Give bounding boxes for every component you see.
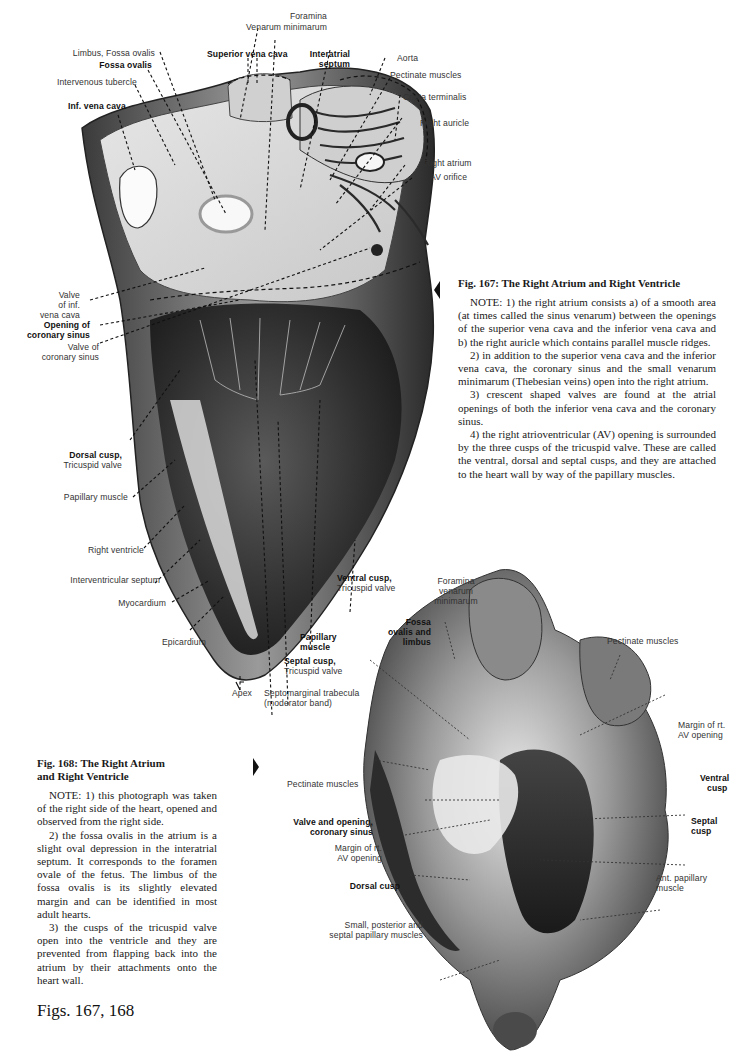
fig168-note-3: 3) the cusps of the tricuspid valve open… (37, 921, 217, 987)
label-valve-of-ivc-3: vena cava (20, 310, 80, 320)
label-pectinate-muscles-167: Pectinate muscles (390, 70, 461, 80)
label-intervenous-tubercle: Intervenous tubercle (57, 77, 137, 87)
label-168-valve-and-opening: Valve and opening, (290, 817, 373, 827)
label-168-av-opening-2: AV opening (320, 853, 382, 863)
fig167-note-2: 2) in addition to the superior vena cava… (458, 349, 716, 389)
label-168-dorsal-cusp: Dorsal cusp (330, 881, 400, 891)
label-168-foramina: Foramina (420, 576, 492, 586)
label-moderator-band: (moderator band) (264, 698, 332, 708)
label-apex: Apex (232, 688, 252, 698)
label-venarum-minimarum: Venarum minimarum (225, 22, 327, 32)
label-dorsal-cusp-tricuspid: Tricuspid valve (20, 460, 122, 470)
label-right-ventricle: Right ventricle (20, 545, 144, 555)
label-myocardium: Myocardium (20, 598, 166, 608)
page-figure-numbers: Figs. 167, 168 (37, 1001, 134, 1021)
label-168-minimarum: minimarum (420, 596, 492, 606)
label-interatrial: Interatrial (300, 49, 350, 59)
caption-pointer-left-icon (434, 281, 440, 299)
label-168-limbus: limbus (380, 637, 431, 647)
label-168-ventral: Ventral (700, 773, 729, 783)
fig168-caption: Fig. 168: The Right Atrium and Right Ven… (37, 757, 217, 987)
label-168-ant-papillary-muscle: muscle (656, 883, 684, 893)
label-interventricular-septum: Interventricular septum (20, 575, 160, 585)
fig167-caption: Fig. 167: The Right Atrium and Right Ven… (458, 277, 716, 481)
label-168-pectinate-muscles-top: Pectinate muscles (607, 636, 678, 646)
fig167-note-4: 4) the right atrioventricular (AV) openi… (458, 428, 716, 481)
fig168-caption-title-2: and Right Ventricle (37, 770, 217, 783)
label-septum: septum (300, 59, 350, 69)
label-168-fossa: Fossa (380, 617, 431, 627)
fig168-note-2: 2) the fossa ovalis in the atrium is a s… (37, 829, 217, 921)
label-168-pectinate-muscles-left: Pectinate muscles (287, 779, 358, 789)
label-right-atrium: Right atrium (424, 158, 472, 168)
fig167-caption-body: NOTE: 1) the right atrium consists a) of… (458, 296, 716, 481)
label-168-septal: Septal (691, 816, 717, 826)
label-opening-of-coronary-sinus-2: coronary sinus (20, 330, 90, 340)
label-papillary-muscle-2: muscle (300, 642, 330, 652)
fig167-caption-title: Fig. 167: The Right Atrium and Right Ven… (458, 277, 716, 290)
caption-pointer-right-icon (253, 758, 259, 776)
fig168-note-1: NOTE: 1) this photograph was taken of th… (37, 789, 217, 829)
fig168-caption-title-1: Fig. 168: The Right Atrium (37, 757, 217, 770)
label-superior-vena-cava: Superior vena cava (207, 49, 288, 59)
fig167-note-3: 3) crescent shaped valves are found at t… (458, 388, 716, 428)
label-crista-terminalis: Crista terminalis (403, 92, 466, 102)
fig168-caption-body: NOTE: 1) this photograph was taken of th… (37, 789, 217, 987)
label-dorsal-cusp: Dorsal cusp, (20, 450, 122, 460)
label-168-septal-cusp: cusp (691, 826, 711, 836)
label-168-ant-papillary: Ant. papillary (656, 873, 707, 883)
label-168-av-opening-1: AV opening (678, 730, 723, 740)
label-168-ovalis-and: ovalis and (380, 627, 431, 637)
label-epicardium: Epicardium (120, 637, 206, 647)
label-foramina: Foramina (255, 11, 327, 21)
label-right-auricle: Right auricle (420, 118, 469, 128)
label-septal-cusp: Septal cusp, (284, 656, 336, 666)
label-168-venarum: venarum (420, 586, 492, 596)
label-valve-of-ivc-1: Valve (20, 290, 80, 300)
label-168-coronary-sinus: coronary sinus (290, 827, 373, 837)
label-opening-of-coronary-sinus-1: Opening of (20, 320, 90, 330)
label-valve-of-coronary-sinus-2: coronary sinus (20, 352, 99, 362)
label-168-margin-rt-av-2: Margin of rt. (320, 843, 382, 853)
label-valve-of-coronary-sinus-1: Valve of (20, 342, 99, 352)
label-av-orifice: AV orifice (430, 172, 467, 182)
label-168-margin-rt-av-1: Margin of rt. (678, 720, 725, 730)
label-papillary-muscle: Papillary muscle (20, 492, 128, 502)
label-168-septal-papillary: septal papillary muscles (300, 930, 423, 940)
label-168-ventral-cusp: cusp (707, 783, 727, 793)
fig167-note-1: NOTE: 1) the right atrium consists a) of… (458, 296, 716, 349)
label-fossa-ovalis: Fossa ovalis (70, 60, 152, 70)
label-inf-vena-cava: Inf. vena cava (68, 101, 126, 111)
label-valve-of-ivc-2: of inf. (20, 300, 80, 310)
label-limbus-fossa-ovalis: Limbus, Fossa ovalis (40, 48, 155, 58)
label-168-small-posterior: Small, posterior and (300, 920, 423, 930)
label-aorta: Aorta (397, 53, 418, 63)
